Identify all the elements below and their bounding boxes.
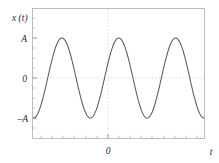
sinusoid-plot: x (t) A 0 –A 0 t: [0, 0, 219, 163]
figure-container: x (t) A 0 –A 0 t: [0, 0, 219, 163]
x-axis-label: t: [210, 147, 213, 157]
y-tick-label-minus-a: –A: [16, 114, 28, 124]
y-axis-major-ticks: [33, 38, 38, 118]
y-tick-label-a: A: [20, 34, 27, 44]
y-tick-label-zero: 0: [22, 74, 27, 84]
x-tick-label-zero: 0: [106, 146, 111, 156]
y-axis-label: x (t): [11, 13, 28, 24]
plot-frame: [33, 9, 205, 139]
